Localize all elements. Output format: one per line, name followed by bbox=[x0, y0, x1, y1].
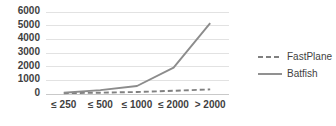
x-tick-label: ≤ 250 bbox=[51, 99, 76, 110]
line-chart: 0100020003000400050006000 ≤ 250≤ 500≤ 10… bbox=[0, 0, 336, 126]
x-tick-label: ≤ 500 bbox=[88, 99, 113, 110]
chart-canvas: 0100020003000400050006000 ≤ 250≤ 500≤ 10… bbox=[0, 0, 336, 126]
y-tick-label: 3000 bbox=[18, 46, 41, 57]
y-tick-label: 5000 bbox=[18, 19, 41, 30]
y-axis-tick-labels: 0100020003000400050006000 bbox=[18, 5, 41, 98]
y-tick-label: 0 bbox=[34, 87, 40, 98]
y-tick-label: 1000 bbox=[18, 73, 41, 84]
x-tick-label: ≤ 2000 bbox=[158, 99, 189, 110]
y-tick-label: 4000 bbox=[18, 32, 41, 43]
legend-label-batfish: Batfish bbox=[287, 68, 318, 79]
y-tick-label: 2000 bbox=[18, 60, 41, 71]
legend-label-fastplane: FastPlane bbox=[287, 51, 332, 62]
y-tick-label: 6000 bbox=[18, 5, 41, 16]
x-tick-label: ≤ 1000 bbox=[122, 99, 153, 110]
x-tick-label: > 2000 bbox=[195, 99, 226, 110]
